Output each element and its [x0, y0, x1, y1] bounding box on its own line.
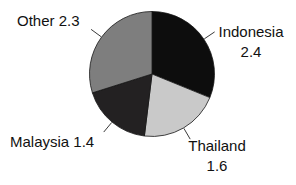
leader-line-malaysia: [104, 122, 112, 132]
slice-label-indonesia: Indonesia 2.4: [211, 22, 291, 62]
slice-label-thailand: Thailand 1.6: [177, 136, 257, 176]
leader-line-other: [91, 29, 101, 36]
pie-chart-figure: Other 2.3 Indonesia 2.4 Malaysia 1.4 Tha…: [0, 0, 296, 185]
slice-label-other: Other 2.3: [17, 11, 80, 31]
slice-label-malaysia: Malaysia 1.4: [10, 132, 94, 152]
